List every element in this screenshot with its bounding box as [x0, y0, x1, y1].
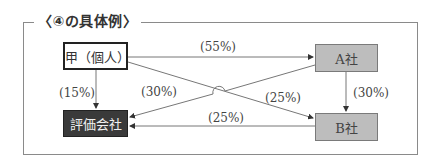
- node-b-label: B社: [335, 118, 358, 137]
- node-kou-individual: 甲（個人）: [63, 42, 128, 70]
- node-eval-label: 評価会社: [70, 114, 122, 133]
- edge-label-a-eval: (30%): [141, 85, 177, 99]
- edge-label-a-b: (30%): [353, 86, 389, 100]
- edge-label-kou-b: (25%): [265, 91, 301, 105]
- node-kou-label: 甲（個人）: [65, 47, 126, 66]
- edge-label-kou-a: (55%): [200, 40, 236, 54]
- node-company-a: A社: [315, 44, 378, 72]
- node-company-b: B社: [315, 113, 378, 141]
- edge-label-kou-eval: (15%): [59, 86, 95, 100]
- edge-label-b-eval: (25%): [208, 111, 244, 125]
- node-evaluated-company: 評価会社: [63, 110, 128, 137]
- diagram-edges: [0, 0, 440, 166]
- node-a-label: A社: [335, 49, 357, 68]
